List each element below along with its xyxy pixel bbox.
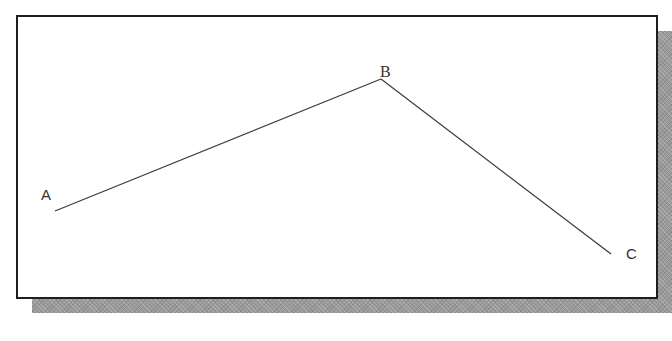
point-label-b: B xyxy=(380,64,391,80)
point-label-c: C xyxy=(626,246,637,262)
line-segment-b-c xyxy=(381,79,611,254)
point-label-a: A xyxy=(41,187,51,203)
drawing-canvas xyxy=(0,0,672,341)
line-segment-a-b xyxy=(55,79,381,211)
